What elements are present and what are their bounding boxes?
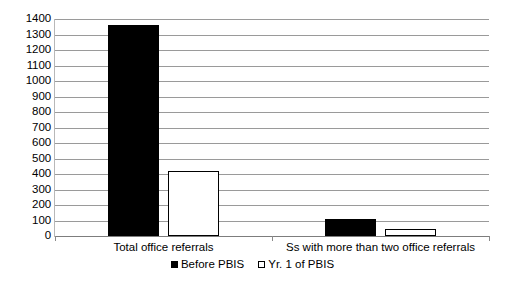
- y-axis-tick-labels: 1400130012001100100090080070060050040030…: [0, 19, 51, 236]
- legend-entry-before-pbis[interactable]: Before PBIS: [171, 258, 244, 271]
- y-axis-tick-label: 100: [3, 215, 51, 227]
- y-axis-tick-label: 1300: [3, 29, 51, 41]
- bar-before-pbis: [108, 25, 159, 236]
- plot-area: [55, 19, 489, 236]
- y-axis-tick-label: 1000: [3, 75, 51, 87]
- y-axis-tick-label: 0: [3, 230, 51, 242]
- legend-entry-yr1-pbis[interactable]: Yr. 1 of PBIS: [258, 258, 334, 271]
- y-axis-tick-label: 400: [3, 168, 51, 180]
- legend-swatch-hollow-square-icon: [258, 261, 265, 268]
- y-axis-tick-label: 800: [3, 106, 51, 118]
- y-axis-tick-label: 200: [3, 199, 51, 211]
- y-axis-tick-label: 700: [3, 122, 51, 134]
- chart-legend: Before PBISYr. 1 of PBIS: [0, 258, 505, 271]
- y-axis-tick-label: 1400: [3, 13, 51, 25]
- bar-before-pbis: [325, 219, 376, 236]
- legend-label: Yr. 1 of PBIS: [268, 258, 334, 271]
- x-axis-tick-mark: [489, 236, 490, 241]
- y-axis-tick-label: 1200: [3, 44, 51, 56]
- legend-swatch-filled-square-icon: [171, 261, 178, 268]
- y-axis-tick-label: 1100: [3, 60, 51, 72]
- y-axis-tick-label: 900: [3, 91, 51, 103]
- x-axis-category-label: Total office referrals: [55, 240, 272, 254]
- bar-chart: 1400130012001100100090080070060050040030…: [0, 0, 505, 285]
- y-axis-tick-label: 500: [3, 153, 51, 165]
- x-axis-category-label: Ss with more than two office referrals: [272, 240, 489, 254]
- y-axis-tick-label: 300: [3, 184, 51, 196]
- y-axis-tick-label: 600: [3, 137, 51, 149]
- legend-label: Before PBIS: [181, 258, 244, 271]
- bar-yr1-pbis: [385, 229, 436, 236]
- gridline: [55, 19, 489, 20]
- bar-yr1-pbis: [168, 171, 219, 236]
